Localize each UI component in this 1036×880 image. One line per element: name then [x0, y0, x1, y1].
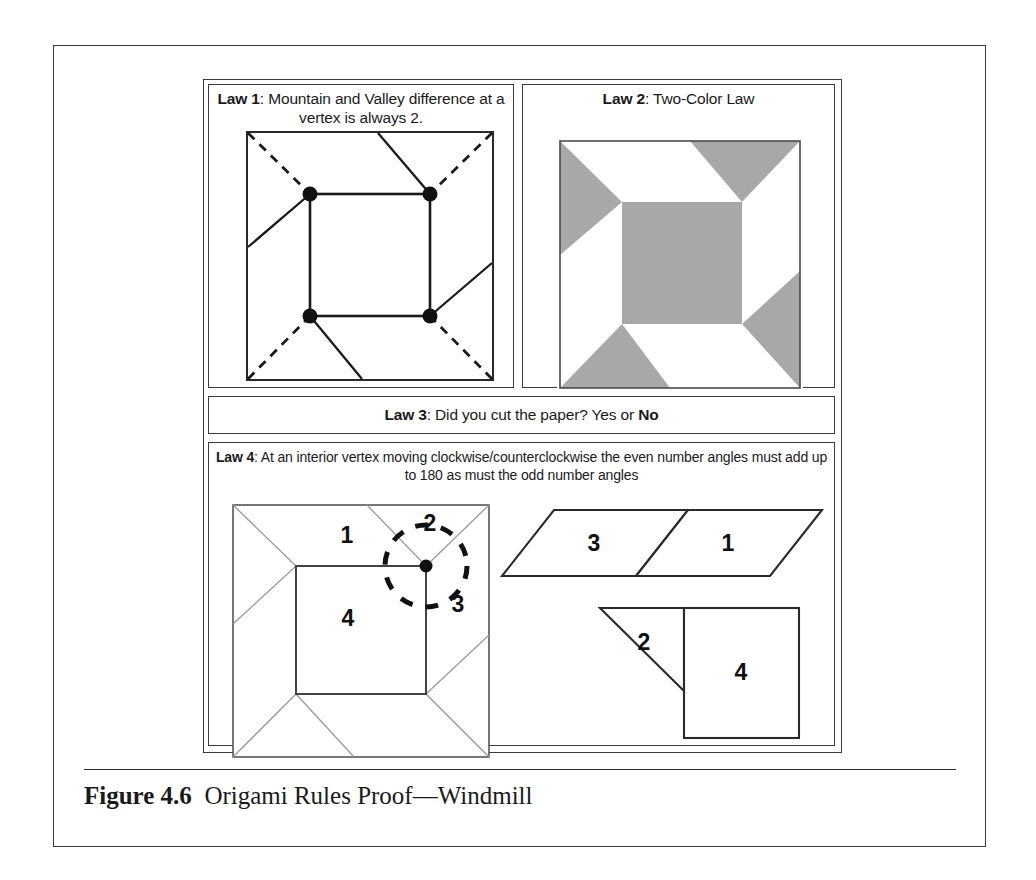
law-1-separator: : — [260, 90, 268, 107]
law-1-heading: Law 1: Mountain and Valley difference at… — [209, 85, 513, 128]
law-4-text: At an interior vertex moving clockwise/c… — [261, 449, 827, 483]
unfolded-label-1: 1 — [722, 530, 735, 556]
angle-label-2: 2 — [424, 510, 437, 536]
law-3-label: Law 3 — [384, 406, 426, 423]
law-4-heading: Law 4: At an interior vertex moving cloc… — [209, 443, 834, 484]
figure-caption-label: Figure 4.6 — [84, 782, 192, 809]
triangle-square-pair — [600, 608, 799, 738]
law-3-answer: No — [638, 406, 658, 423]
law-2-svg — [557, 138, 803, 392]
law-4-label: Law 4 — [216, 449, 254, 465]
parallelogram-pair — [502, 510, 822, 576]
law-1-text: Mountain and Valley difference at a vert… — [268, 90, 504, 126]
law-2-two-color-diagram — [557, 138, 803, 392]
figure-caption-spacer — [192, 782, 205, 809]
figure-caption: Figure 4.6 Origami Rules Proof—Windmill — [84, 782, 944, 810]
law-3-text: Did you cut the paper? Yes or — [435, 406, 638, 423]
unfolded-label-3: 3 — [588, 530, 601, 556]
unfolded-label-4: 4 — [735, 659, 748, 685]
law-4-unfolded-diagrams: 3 1 2 4 — [492, 498, 832, 743]
angle-label-4: 4 — [342, 605, 355, 631]
law-2-text: Two-Color Law — [653, 90, 754, 107]
law-4-crease-pattern: 1 2 3 4 — [230, 502, 492, 760]
law-4-unfolded-svg: 3 1 2 4 — [492, 498, 832, 743]
figure-caption-text: Origami Rules Proof—Windmill — [204, 782, 532, 809]
panel-law-4: Law 4: At an interior vertex moving cloc… — [208, 442, 835, 746]
panel-law-1: Law 1: Mountain and Valley difference at… — [208, 84, 514, 388]
unfolded-label-2: 2 — [638, 629, 651, 655]
interior-vertex-dot — [420, 560, 433, 573]
law-4-svg: 1 2 3 4 — [230, 502, 492, 760]
law-2-label: Law 2 — [603, 90, 645, 107]
law-4-separator: : — [254, 449, 261, 465]
figure-box: Law 1: Mountain and Valley difference at… — [203, 79, 842, 753]
law-1-crease-pattern — [245, 130, 495, 382]
law-3-heading: Law 3: Did you cut the paper? Yes or No — [209, 397, 834, 425]
panel-law-3: Law 3: Did you cut the paper? Yes or No — [208, 396, 835, 434]
angle-label-3: 3 — [452, 591, 465, 617]
law-1-svg — [245, 130, 495, 382]
angle-label-1: 1 — [341, 522, 354, 548]
law-2-heading: Law 2: Two-Color Law — [523, 85, 834, 109]
panel-law-2: Law 2: Two-Color Law — [522, 84, 835, 388]
law-1-label: Law 1 — [218, 90, 260, 107]
page-frame: Law 1: Mountain and Valley difference at… — [53, 45, 986, 847]
law-2-separator: : — [645, 90, 653, 107]
law-3-separator: : — [427, 406, 435, 423]
caption-divider — [84, 769, 956, 770]
